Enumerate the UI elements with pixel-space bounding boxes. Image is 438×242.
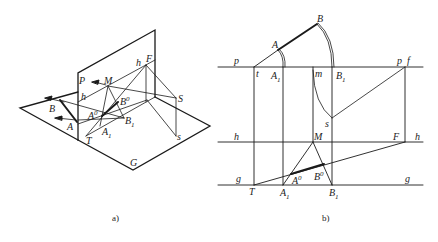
- label-f: f: [407, 55, 411, 66]
- label-f: F: [145, 53, 153, 64]
- label-t-upper: T: [249, 186, 256, 197]
- label-h-right: h: [415, 131, 420, 142]
- label-h-left: h: [234, 131, 239, 142]
- label-b-top: B: [317, 13, 323, 24]
- line-m-a1: [100, 86, 108, 126]
- label-b: B: [49, 103, 55, 114]
- label-p: P: [78, 75, 85, 86]
- label-a: A: [66, 121, 74, 132]
- label-f-upper: F: [392, 131, 400, 142]
- label-m-upper: M: [313, 131, 323, 142]
- label-b1-top: B1: [336, 70, 346, 84]
- line-f-t: [86, 65, 146, 136]
- label-b0: B0: [314, 170, 324, 182]
- label-a-top: A: [271, 39, 279, 50]
- label-t: T: [86, 135, 93, 146]
- label-b0: B0: [120, 95, 130, 107]
- label-s-lower: s: [177, 131, 181, 142]
- label-p-right: p: [396, 55, 402, 66]
- segment-a-b: [278, 24, 317, 50]
- panel-b: [218, 23, 423, 185]
- label-g-right: g: [405, 173, 410, 184]
- label-h-left: h: [81, 91, 86, 102]
- line-s-f: [332, 67, 405, 118]
- line-f-s-upper: [146, 65, 176, 98]
- label-g: G: [130, 157, 137, 168]
- label-a1: A1: [101, 126, 112, 140]
- line-t-a: [254, 50, 278, 67]
- figure-canvas: P h h M F B B0 A0 A A1 B1 T S s G a): [0, 0, 438, 242]
- label-m: M: [103, 75, 113, 86]
- label-m: m: [315, 68, 322, 79]
- line-m-s: [108, 86, 176, 98]
- label-a1-top: A1: [270, 70, 281, 84]
- ground-plane-g: [78, 97, 210, 170]
- caption-a: a): [112, 213, 119, 223]
- vertical-plane-p: [78, 30, 155, 140]
- label-h-top: h: [136, 57, 141, 68]
- label-b1-bottom: B1: [329, 187, 339, 201]
- label-s-upper: S: [178, 93, 183, 104]
- label-t: t: [256, 68, 259, 79]
- label-s: s: [325, 118, 329, 129]
- label-p-left: p: [233, 55, 239, 66]
- label-g-left: g: [236, 173, 241, 184]
- label-a1-bottom: A1: [279, 187, 290, 201]
- label-a0: A0: [291, 174, 302, 186]
- caption-b: b): [322, 213, 330, 223]
- label-b1: B1: [125, 115, 135, 129]
